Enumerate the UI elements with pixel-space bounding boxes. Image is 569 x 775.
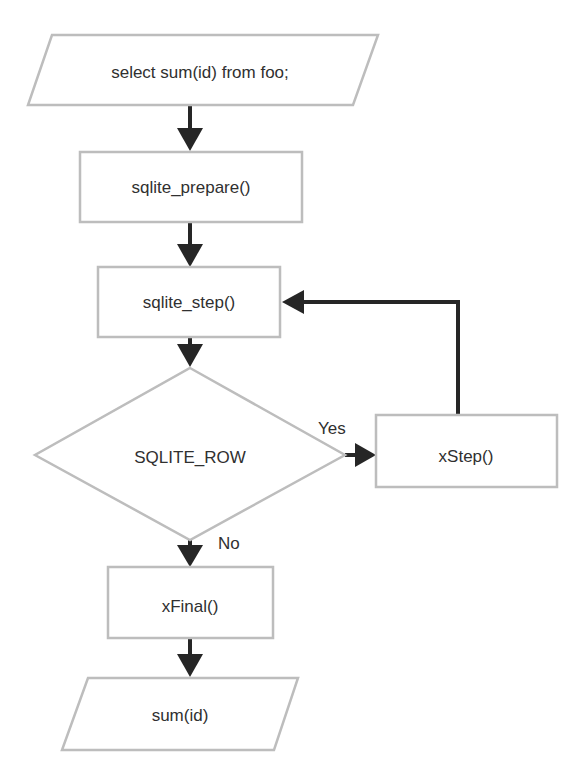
- arrowhead-icon: [355, 443, 376, 467]
- arrowhead-icon: [177, 545, 203, 567]
- node-prepare-label: sqlite_prepare(): [131, 178, 250, 197]
- arrowhead-icon: [177, 654, 203, 677]
- edge-step-to-decision: [177, 337, 203, 367]
- node-query-label: select sum(id) from foo;: [111, 63, 289, 82]
- node-step-label: sqlite_step(): [143, 293, 236, 312]
- node-step: sqlite_step(): [98, 267, 280, 337]
- arrowhead-icon: [282, 290, 304, 314]
- node-query: select sum(id) from foo;: [28, 35, 378, 105]
- edge-decision-to-xstep-yes: [345, 443, 376, 467]
- edge-prepare-to-step: [177, 222, 203, 267]
- edge-xstep-to-step-loop: [282, 290, 458, 415]
- node-prepare: sqlite_prepare(): [80, 152, 302, 222]
- node-xfinal-label: xFinal(): [162, 597, 219, 616]
- node-xfinal: xFinal(): [108, 567, 273, 638]
- node-xstep-label: xStep(): [439, 447, 494, 466]
- node-decision-label: SQLITE_ROW: [134, 448, 245, 467]
- edge-xfinal-to-result: [177, 638, 203, 677]
- node-decision: SQLITE_ROW: [35, 368, 345, 540]
- arrowhead-icon: [177, 344, 203, 367]
- arrowhead-icon: [177, 128, 203, 151]
- node-result: sum(id): [62, 678, 298, 750]
- edge-label-yes: Yes: [318, 419, 346, 438]
- node-xstep: xStep(): [376, 415, 557, 487]
- node-result-label: sum(id): [152, 706, 209, 725]
- flowchart-canvas: select sum(id) from foo; sqlite_prepare(…: [0, 0, 569, 775]
- arrowhead-icon: [177, 244, 203, 267]
- edge-label-no: No: [218, 534, 240, 553]
- edge-decision-to-xfinal-no: [177, 540, 203, 567]
- edge-query-to-prepare: [177, 105, 203, 151]
